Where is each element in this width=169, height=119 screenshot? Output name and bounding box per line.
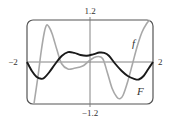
series-label-F: F [136,85,144,97]
y-tick-label-bottom: −1.2 [82,108,98,118]
y-tick-label-top: 1.2 [84,6,95,16]
x-tick-label-left: −2 [8,57,18,67]
chart-svg: 1.2 −1.2 −2 2 f F [0,0,169,119]
x-tick-label-right: 2 [158,57,163,67]
